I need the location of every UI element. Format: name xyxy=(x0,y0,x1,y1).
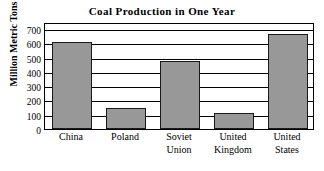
bar xyxy=(52,42,92,129)
x-tick-label: United Kingdom xyxy=(206,131,260,156)
y-tick-label-700: 700 xyxy=(14,27,41,36)
plot-inner xyxy=(45,24,313,129)
bar xyxy=(160,61,200,129)
plot-area xyxy=(44,23,314,130)
bars-layer xyxy=(45,24,313,129)
y-tick-label-0: 0 xyxy=(14,127,41,136)
bar xyxy=(268,34,308,129)
bar xyxy=(214,113,254,129)
y-tick-label-100: 100 xyxy=(14,113,41,122)
x-tick-label: Soviet Union xyxy=(152,131,206,156)
y-tick-label-600: 600 xyxy=(14,41,41,50)
y-tick-label-500: 500 xyxy=(14,56,41,65)
x-tick-label: Poland xyxy=(98,131,152,144)
bar xyxy=(106,108,146,129)
y-tick-label-300: 300 xyxy=(14,84,41,93)
y-tick-label-400: 400 xyxy=(14,70,41,79)
y-axis-tick-labels: 0100200300400500600700 xyxy=(14,24,41,129)
y-tick-label-200: 200 xyxy=(14,98,41,107)
x-tick-label: China xyxy=(44,131,98,144)
x-axis-tick-labels: ChinaPolandSoviet UnionUnited KingdomUni… xyxy=(44,131,314,169)
x-tick-label: United States xyxy=(260,131,314,156)
chart-title: Coal Production in One Year xyxy=(0,5,324,18)
bar-chart-figure: Coal Production in One Year Million Metr… xyxy=(0,0,324,171)
